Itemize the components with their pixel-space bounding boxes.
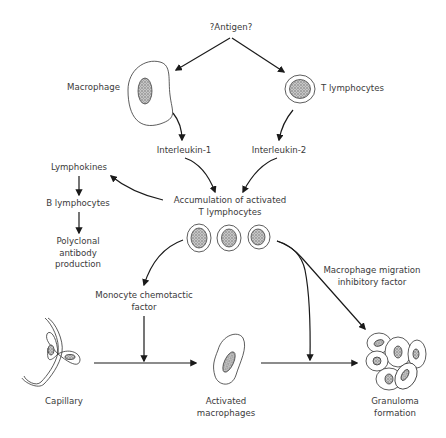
- label-interleukin-2: Interleukin-2: [252, 145, 307, 157]
- diagram-artwork: [0, 0, 446, 438]
- label-antigen: ?Antigen?: [210, 22, 252, 34]
- arrow-macrophage-il1: [173, 113, 182, 140]
- diagram-canvas: ?Antigen? Macrophage T lymphocytes Inter…: [0, 0, 446, 438]
- label-accumulation: Accumulation of activated T lymphocytes: [174, 195, 287, 218]
- label-granuloma-formation: Granuloma formation: [371, 396, 419, 419]
- label-capillary: Capillary: [45, 396, 83, 408]
- label-monocyte-chemotactic-factor: Monocyte chemotactic factor: [95, 290, 193, 313]
- arrow-il2-accum: [243, 158, 277, 192]
- activated-t-lymphocytes-icon: [187, 224, 270, 252]
- label-polyclonal: Polyclonal antibody production: [55, 236, 101, 271]
- granuloma-cluster-icon: [366, 333, 426, 393]
- label-t-lymphocytes: T lymphocytes: [321, 83, 384, 95]
- label-b-lymphocytes: B lymphocytes: [46, 198, 110, 210]
- activated-macrophage-icon: [214, 334, 245, 384]
- macrophage-cell-icon: [128, 61, 173, 125]
- arrow-accum-monocyte: [144, 240, 183, 285]
- arrow-accum-granuloma-path: [277, 241, 310, 360]
- t-lymphocyte-cell-icon: [285, 75, 315, 103]
- arrow-accum-lymphokines: [111, 176, 163, 200]
- label-mif: Macrophage migration inhibitory factor: [323, 265, 420, 288]
- arrow-tlymph-il2: [279, 110, 293, 140]
- label-macrophage: Macrophage: [67, 82, 120, 94]
- arrow-antigen-macrophage: [176, 38, 230, 70]
- arrow-antigen-tlymph: [232, 38, 284, 72]
- label-lymphokines: Lymphokines: [51, 162, 107, 174]
- label-interleukin-1: Interleukin-1: [157, 145, 212, 157]
- capillary-icon: [22, 318, 80, 386]
- arrow-il1-accum: [185, 158, 215, 192]
- label-activated-macrophages: Activated macrophages: [197, 396, 255, 419]
